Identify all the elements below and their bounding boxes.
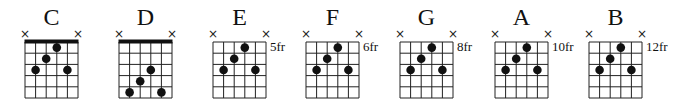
finger-dot — [344, 66, 353, 75]
chord-c: C×× — [20, 4, 83, 98]
finger-dot — [501, 66, 510, 75]
chord-a: A××10fr — [490, 4, 574, 98]
chord-g: G××8fr — [395, 4, 473, 98]
chord-e: E××5fr — [208, 4, 286, 98]
finger-dot — [42, 55, 51, 64]
finger-dot — [595, 66, 604, 75]
finger-dot — [617, 43, 626, 52]
finger-dot — [136, 77, 145, 86]
finger-dot — [334, 43, 343, 52]
fret-position-label: 12fr — [646, 39, 668, 54]
finger-dot — [125, 88, 134, 97]
muted-string-icon: × — [208, 27, 218, 41]
muted-string-icon: × — [301, 27, 311, 41]
finger-dot — [147, 66, 156, 75]
chord-b: B××12fr — [584, 4, 668, 98]
chord-name: A — [513, 4, 531, 30]
muted-string-icon: × — [584, 27, 594, 41]
finger-dot — [251, 66, 260, 75]
finger-dot — [63, 66, 72, 75]
chord-name: D — [137, 4, 154, 30]
finger-dot — [523, 43, 532, 52]
finger-dot — [219, 66, 228, 75]
finger-dot — [53, 43, 62, 52]
muted-string-icon: × — [20, 27, 30, 41]
fret-position-label: 10fr — [552, 39, 574, 54]
finger-dot — [312, 66, 321, 75]
chord-diagrams: C××D××E××5frF××6frG××8frA××10frB××12fr — [0, 0, 685, 108]
fret-position-label: 6fr — [363, 39, 379, 54]
finger-dot — [157, 88, 166, 97]
muted-string-icon: × — [167, 27, 177, 41]
finger-dot — [627, 66, 636, 75]
muted-string-icon: × — [490, 27, 500, 41]
fret-position-label: 8fr — [457, 39, 473, 54]
finger-dot — [31, 66, 40, 75]
fret-position-label: 5fr — [270, 39, 286, 54]
finger-dot — [512, 55, 521, 64]
finger-dot — [438, 66, 447, 75]
chord-name: E — [232, 4, 247, 30]
chord-d: D×× — [114, 4, 177, 98]
muted-string-icon: × — [114, 27, 124, 41]
finger-dot — [406, 66, 415, 75]
finger-dot — [417, 55, 426, 64]
finger-dot — [533, 66, 542, 75]
finger-dot — [230, 55, 239, 64]
chord-name: G — [418, 4, 435, 30]
chord-name: B — [607, 4, 623, 30]
chord-name: F — [326, 4, 339, 30]
finger-dot — [606, 55, 615, 64]
chord-name: C — [43, 4, 59, 30]
nut-bar — [25, 40, 79, 44]
muted-string-icon: × — [73, 27, 83, 41]
muted-string-icon: × — [395, 27, 405, 41]
finger-dot — [241, 43, 250, 52]
finger-dot — [428, 43, 437, 52]
nut-bar — [119, 40, 173, 44]
finger-dot — [323, 55, 332, 64]
chord-f: F××6fr — [301, 4, 379, 98]
